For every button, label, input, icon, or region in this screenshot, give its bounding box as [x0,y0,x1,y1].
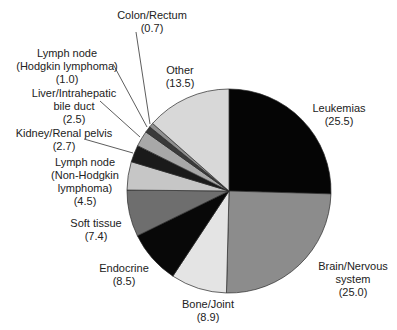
label-value: (2.7) [12,140,116,153]
label-value: (4.5) [45,195,125,208]
label-endocrine: Endocrine (8.5) [88,262,160,288]
label-non-hodgkin: Lymph node (Non-Hodgkin lymphoma) (4.5) [45,156,125,208]
label-value: (1.0) [12,73,122,86]
label-text: bile duct [28,100,120,113]
label-leukemias: Leukemias (25.5) [303,102,375,128]
label-value: (2.5) [28,113,120,126]
label-text: (Non-Hodgkin [45,169,125,182]
label-text: Brain/Nervous [313,260,393,273]
label-kidney: Kidney/Renal pelvis (2.7) [12,127,116,153]
label-text: Liver/Intrahepatic [28,87,120,100]
label-text: Soft tissue [60,217,132,230]
label-text: Other [150,64,210,77]
label-text: (Hodgkin lymphoma) [12,60,122,73]
label-text: Lymph node [12,47,122,60]
label-value: (0.7) [111,22,193,35]
label-text: Kidney/Renal pelvis [12,127,116,140]
label-liver: Liver/Intrahepatic bile duct (2.5) [28,87,120,126]
label-text: Lymph node [45,156,125,169]
label-colon-rectum: Colon/Rectum (0.7) [111,9,193,35]
label-text: lymphoma) [45,182,125,195]
label-text: Leukemias [303,102,375,115]
label-other: Other (13.5) [150,64,210,90]
label-text: Bone/Joint [172,298,244,311]
label-value: (8.9) [172,311,244,324]
label-value: (25.5) [303,115,375,128]
label-text: Colon/Rectum [111,9,193,22]
label-value: (25.0) [313,286,393,299]
label-value: (7.4) [60,230,132,243]
label-value: (8.5) [88,275,160,288]
label-brain-nervous: Brain/Nervous system (25.0) [313,260,393,299]
label-hodgkin: Lymph node (Hodgkin lymphoma) (1.0) [12,47,122,86]
label-text: system [313,273,393,286]
label-value: (13.5) [150,77,210,90]
label-text: Endocrine [88,262,160,275]
label-soft-tissue: Soft tissue (7.4) [60,217,132,243]
label-bone-joint: Bone/Joint (8.9) [172,298,244,324]
